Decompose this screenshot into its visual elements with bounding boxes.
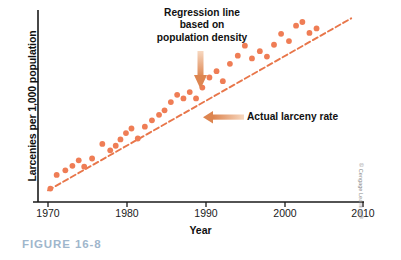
scatter-point bbox=[174, 92, 180, 98]
figure-container: Larcenies per 1,000 population 1970 1980… bbox=[0, 0, 401, 260]
x-tick-label-2000: 2000 bbox=[265, 207, 305, 219]
scatter-point bbox=[47, 186, 53, 192]
figure-caption: FIGURE 16-8 bbox=[22, 238, 102, 250]
scatter-point bbox=[314, 25, 320, 31]
scatter-point bbox=[118, 137, 124, 143]
scatter-point bbox=[149, 117, 155, 123]
x-tick-label-1970: 1970 bbox=[28, 207, 68, 219]
scatter-point bbox=[168, 99, 174, 105]
scatter-point bbox=[187, 89, 193, 95]
scatter-point bbox=[293, 23, 299, 29]
scatter-point bbox=[99, 141, 105, 147]
regression-arrow-icon bbox=[194, 51, 207, 89]
scatter-points bbox=[47, 19, 319, 191]
scatter-point bbox=[299, 19, 305, 25]
scatter-point bbox=[62, 167, 68, 173]
scatter-point bbox=[129, 126, 135, 132]
scatter-point bbox=[264, 54, 270, 60]
scatter-point bbox=[193, 96, 199, 102]
scatter-point bbox=[76, 157, 82, 163]
actual-rate-arrow-icon bbox=[203, 111, 244, 124]
scatter-point bbox=[207, 75, 213, 81]
copyright-credit: © Cengage Learning® bbox=[358, 163, 364, 243]
scatter-point bbox=[249, 56, 255, 62]
scatter-point bbox=[123, 130, 129, 136]
scatter-point bbox=[257, 48, 263, 54]
scatter-point bbox=[214, 68, 220, 74]
scatter-point bbox=[89, 156, 95, 162]
scatter-point bbox=[235, 53, 241, 59]
scatter-point bbox=[135, 136, 141, 142]
regression-line-annotation: Regression line based on population dens… bbox=[112, 7, 292, 44]
scatter-point bbox=[81, 164, 87, 170]
scatter-point bbox=[54, 172, 60, 178]
scatter-point bbox=[142, 124, 148, 130]
regression-annotation-line-3: population density bbox=[112, 32, 292, 44]
scatter-point bbox=[162, 107, 168, 113]
scatter-point bbox=[227, 61, 233, 67]
y-axis-title: Larcenies per 1,000 population bbox=[26, 6, 38, 206]
scatter-point bbox=[113, 143, 119, 149]
scatter-point bbox=[107, 147, 113, 153]
regression-annotation-line-1: Regression line bbox=[112, 7, 292, 19]
scatter-point bbox=[181, 96, 187, 102]
scatter-point bbox=[307, 30, 313, 36]
regression-annotation-line-2: based on bbox=[112, 19, 292, 31]
scatter-point bbox=[156, 112, 162, 118]
actual-rate-annotation: Actual larceny rate bbox=[247, 111, 338, 122]
scatter-point bbox=[220, 78, 226, 84]
x-tick-label-1980: 1980 bbox=[107, 207, 147, 219]
x-tick-label-1990: 1990 bbox=[186, 207, 226, 219]
scatter-point bbox=[70, 163, 76, 169]
x-axis-title: Year bbox=[0, 224, 401, 236]
